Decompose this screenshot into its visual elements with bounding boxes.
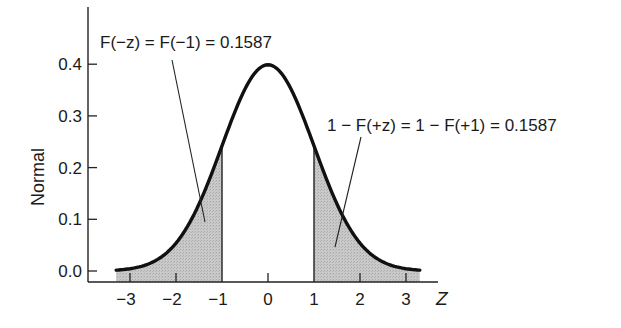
x-tick-label: −3	[116, 290, 135, 309]
density-curve	[116, 65, 420, 270]
y-axis: 0.00.10.20.30.4	[58, 7, 97, 282]
left-leader-line	[172, 60, 205, 222]
y-tick-label: 0.0	[58, 262, 82, 281]
right-annotation: 1 − F(+z) = 1 − F(+1) = 0.1587	[327, 116, 557, 247]
x-tick-label: 1	[309, 290, 318, 309]
left-annotation-text: F(−z) = F(−1) = 0.1587	[100, 33, 272, 52]
y-tick-label: 0.1	[58, 210, 82, 229]
x-tick-label: 2	[355, 290, 364, 309]
x-tick-label: −2	[162, 290, 181, 309]
x-tick-label: −1	[208, 290, 227, 309]
shaded-left-tail	[116, 146, 222, 282]
shaded-right-tail	[314, 146, 420, 282]
right-annotation-text: 1 − F(+z) = 1 − F(+1) = 0.1587	[327, 116, 557, 135]
x-axis-label: Z	[435, 288, 449, 309]
left-annotation: F(−z) = F(−1) = 0.1587	[100, 33, 272, 222]
y-axis-label: Normal	[28, 148, 48, 206]
x-tick-label: 0	[263, 290, 272, 309]
y-tick-label: 0.3	[58, 107, 82, 126]
y-tick-label: 0.2	[58, 159, 82, 178]
normal-distribution-chart: 0.00.10.20.30.4 −3−2−10123 Normal Z F(−z…	[0, 0, 621, 328]
y-tick-label: 0.4	[58, 55, 82, 74]
x-tick-label: 3	[401, 290, 410, 309]
